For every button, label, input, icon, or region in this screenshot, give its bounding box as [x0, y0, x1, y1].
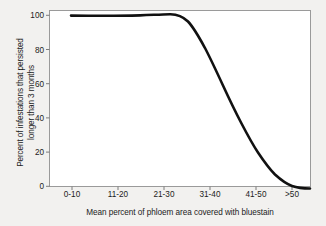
- x-axis-title: Mean percent of phloem area covered with…: [49, 208, 311, 217]
- x-tick-label-31-40: 31-40: [186, 190, 234, 199]
- x-tick-label-0-10: 0-10: [48, 190, 96, 199]
- plot-frame: [50, 11, 311, 187]
- x-tick-label-21-30: 21-30: [140, 190, 188, 199]
- x-tick-label-11-20: 11-20: [94, 190, 142, 199]
- chart-figure: 100 80 60 40 20 0 0-10 11-20 21-30 31-40…: [0, 0, 326, 226]
- y-axis-title: Percent of infestations that persisted l…: [16, 15, 37, 191]
- x-tick-label-gt50: >50: [268, 190, 316, 199]
- y-axis-title-line1: Percent of infestations that persisted: [16, 38, 25, 167]
- y-axis-title-line2: longer than 3 months: [26, 15, 37, 191]
